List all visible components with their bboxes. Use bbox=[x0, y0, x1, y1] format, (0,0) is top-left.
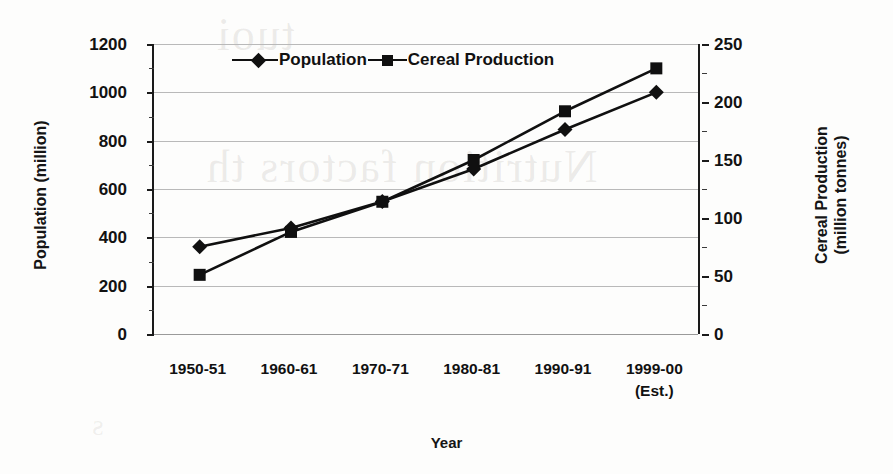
legend-label-cereal-production: Cereal Production bbox=[408, 50, 554, 70]
right-axis-title-line1: Cereal Production bbox=[812, 70, 831, 320]
x-tick-label-year: 1999-00 bbox=[594, 358, 714, 380]
x-axis-title: Year bbox=[0, 434, 893, 451]
axis-tick bbox=[702, 160, 709, 162]
diamond-marker-icon bbox=[192, 239, 207, 254]
right-tick-label: 0 bbox=[714, 326, 804, 343]
axis-tick bbox=[147, 286, 154, 288]
axis-tick-minor bbox=[702, 247, 707, 248]
left-tick-label: 600 bbox=[37, 181, 127, 198]
axis-tick bbox=[702, 218, 709, 220]
square-marker-icon bbox=[285, 226, 297, 238]
axis-tick-minor bbox=[702, 305, 707, 306]
right-tick-label: 100 bbox=[714, 210, 804, 227]
axis-tick-minor bbox=[702, 189, 707, 190]
series-plot bbox=[154, 44, 702, 334]
legend-line-icon bbox=[392, 59, 407, 61]
axis-tick-minor bbox=[702, 131, 707, 132]
axis-tick bbox=[147, 334, 154, 336]
legend-entry-cereal-production[interactable]: Cereal Production bbox=[368, 50, 555, 70]
diamond-marker-icon bbox=[251, 52, 267, 68]
right-axis-title: Cereal Production (million tonnes) bbox=[812, 70, 850, 320]
left-tick-label: 1200 bbox=[37, 36, 127, 53]
left-tick-label: 0 bbox=[37, 326, 127, 343]
legend-entry-population[interactable]: Population bbox=[232, 50, 368, 70]
left-tick-label: 1000 bbox=[37, 84, 127, 101]
x-tick-label: 1999-00(Est.) bbox=[594, 358, 714, 402]
axis-tick-minor bbox=[702, 73, 707, 74]
square-marker-icon bbox=[194, 269, 206, 281]
diamond-marker-icon bbox=[649, 85, 664, 100]
square-marker-icon bbox=[559, 105, 571, 117]
axis-tick bbox=[147, 92, 154, 94]
right-tick-label: 250 bbox=[714, 36, 804, 53]
axis-tick bbox=[702, 276, 709, 278]
chart-legend: Population Cereal Production bbox=[232, 50, 555, 70]
series-line-diamond bbox=[200, 92, 657, 246]
left-tick-label: 400 bbox=[37, 229, 127, 246]
axis-tick bbox=[702, 334, 709, 336]
axis-tick bbox=[147, 237, 154, 239]
legend-line-icon bbox=[368, 59, 383, 61]
axis-tick bbox=[147, 44, 154, 46]
gridline bbox=[154, 334, 698, 335]
square-marker-icon bbox=[650, 62, 662, 74]
axis-tick bbox=[702, 102, 709, 104]
diamond-marker-icon bbox=[558, 122, 573, 137]
right-tick-label: 150 bbox=[714, 152, 804, 169]
right-tick-label: 50 bbox=[714, 268, 804, 285]
chart-screenshot: tuoi Nutrition factors th s Population (… bbox=[0, 0, 893, 474]
right-tick-label: 200 bbox=[714, 94, 804, 111]
series-line-square bbox=[200, 68, 657, 274]
axis-tick bbox=[147, 189, 154, 191]
plot-area bbox=[152, 44, 700, 334]
square-marker-icon bbox=[376, 196, 388, 208]
legend-label-population: Population bbox=[279, 50, 367, 70]
left-tick-label: 200 bbox=[37, 278, 127, 295]
x-tick-label-note: (Est.) bbox=[594, 380, 714, 402]
axis-tick bbox=[702, 44, 709, 46]
left-tick-label: 800 bbox=[37, 133, 127, 150]
right-axis-title-line2: (million tonnes) bbox=[831, 70, 850, 320]
axis-tick bbox=[147, 141, 154, 143]
square-marker-icon bbox=[468, 154, 480, 166]
